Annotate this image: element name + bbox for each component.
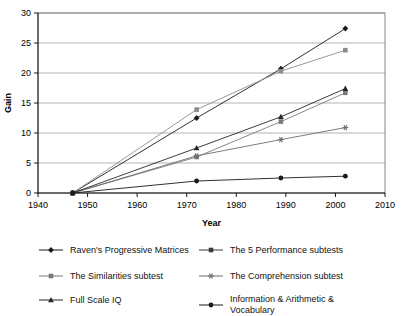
legend-marker-square-icon bbox=[38, 270, 64, 282]
legend-item[interactable]: The 5 Performance subtests bbox=[198, 244, 343, 256]
data-point-square bbox=[343, 48, 348, 53]
line-chart-svg: 0510152025301940195019601970198019902000… bbox=[0, 0, 401, 238]
y-tick-label: 30 bbox=[21, 8, 31, 18]
chart-figure: 0510152025301940195019601970198019902000… bbox=[0, 0, 401, 316]
legend-item-label: Full Scale IQ bbox=[70, 295, 122, 306]
y-tick-label: 10 bbox=[21, 128, 31, 138]
legend-item-label: Information & Arithmetic & Vocabulary bbox=[230, 294, 334, 316]
legend-item-label: The 5 Performance subtests bbox=[230, 245, 343, 256]
x-axis-title: Year bbox=[202, 218, 222, 228]
circle-marker bbox=[70, 191, 75, 196]
x-tick-label: 2000 bbox=[325, 200, 345, 210]
data-point-asterisk bbox=[278, 137, 284, 142]
series-3 bbox=[70, 125, 349, 196]
y-tick-label: 20 bbox=[21, 68, 31, 78]
triangle-marker bbox=[342, 86, 348, 91]
circle-marker bbox=[279, 176, 284, 181]
y-tick-label: 25 bbox=[21, 38, 31, 48]
x-tick-label: 1980 bbox=[226, 200, 246, 210]
legend-item-label: Raven's Progressive Matrices bbox=[70, 245, 189, 256]
legend-marker-asterisk-icon bbox=[198, 270, 224, 282]
legend-item[interactable]: The Similarities subtest bbox=[38, 270, 163, 282]
legend-item[interactable]: Raven's Progressive Matrices bbox=[38, 244, 189, 256]
data-point-circle bbox=[194, 179, 199, 184]
y-axis-title: Gain bbox=[3, 93, 13, 113]
legend-marker-square-icon bbox=[198, 244, 224, 256]
x-tick-label: 2010 bbox=[375, 200, 395, 210]
x-tick-label: 1960 bbox=[127, 200, 147, 210]
x-tick-label: 1990 bbox=[276, 200, 296, 210]
series-5 bbox=[70, 174, 347, 196]
circle-marker bbox=[194, 179, 199, 184]
legend-item[interactable]: Full Scale IQ bbox=[38, 294, 122, 306]
data-point-square bbox=[194, 107, 199, 112]
square-marker bbox=[279, 119, 284, 124]
series-line bbox=[73, 50, 346, 193]
legend-item-label: The Similarities subtest bbox=[70, 271, 163, 282]
data-point-square bbox=[343, 91, 348, 96]
data-point-square bbox=[279, 119, 284, 124]
legend-marker-diamond-icon bbox=[38, 244, 64, 256]
chart-legend: Raven's Progressive MatricesThe 5 Perfor… bbox=[0, 238, 401, 316]
square-marker bbox=[279, 69, 284, 74]
x-tick-label: 1940 bbox=[28, 200, 48, 210]
series-0 bbox=[70, 26, 348, 196]
legend-item-label: The Comprehension subtest bbox=[230, 271, 343, 282]
legend-marker-triangle-icon bbox=[38, 294, 64, 306]
series-1 bbox=[70, 48, 347, 195]
y-tick-label: 5 bbox=[26, 158, 31, 168]
y-tick-label: 0 bbox=[26, 188, 31, 198]
data-point-diamond bbox=[194, 115, 200, 121]
x-tick-label: 1950 bbox=[78, 200, 98, 210]
data-point-triangle bbox=[342, 86, 348, 91]
series-line bbox=[73, 128, 346, 193]
legend-item[interactable]: The Comprehension subtest bbox=[198, 270, 343, 282]
legend-item[interactable]: Information & Arithmetic & Vocabulary bbox=[198, 294, 334, 316]
x-tick-label: 1970 bbox=[177, 200, 197, 210]
diamond-marker bbox=[342, 26, 348, 32]
square-marker bbox=[343, 91, 348, 96]
diamond-marker bbox=[194, 115, 200, 121]
legend-marker-circle-icon bbox=[198, 299, 224, 311]
data-point-circle bbox=[70, 191, 75, 196]
chart-plot-area: 0510152025301940195019601970198019902000… bbox=[0, 0, 401, 238]
data-point-circle bbox=[343, 174, 348, 179]
data-point-diamond bbox=[342, 26, 348, 32]
series-line bbox=[73, 176, 346, 193]
data-point-circle bbox=[279, 176, 284, 181]
y-tick-label: 15 bbox=[21, 98, 31, 108]
data-point-square bbox=[279, 69, 284, 74]
square-marker bbox=[343, 48, 348, 53]
data-point-asterisk bbox=[342, 125, 348, 130]
square-marker bbox=[194, 107, 199, 112]
series-4 bbox=[70, 86, 348, 196]
circle-marker bbox=[343, 174, 348, 179]
